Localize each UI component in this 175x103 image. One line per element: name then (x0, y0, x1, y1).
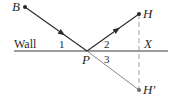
point-h-dot (137, 12, 141, 16)
label-wall: Wall (14, 37, 37, 51)
point-b-dot (23, 5, 27, 9)
label-angle-1: 1 (59, 38, 65, 50)
label-angle-3: 3 (104, 53, 110, 65)
label-h: H (142, 6, 153, 21)
label-p: P (81, 52, 90, 67)
reflected-ray (87, 14, 139, 51)
label-x: X (143, 36, 153, 51)
reflection-diagram: B H P H′ X Wall 1 2 3 (0, 0, 175, 103)
extension-line (87, 51, 139, 90)
label-h-prime: H′ (142, 82, 155, 97)
diagram-canvas: B H P H′ X Wall 1 2 3 (0, 0, 175, 103)
point-h-prime-dot (137, 88, 141, 92)
label-angle-2: 2 (104, 38, 110, 50)
label-b: B (12, 0, 20, 14)
